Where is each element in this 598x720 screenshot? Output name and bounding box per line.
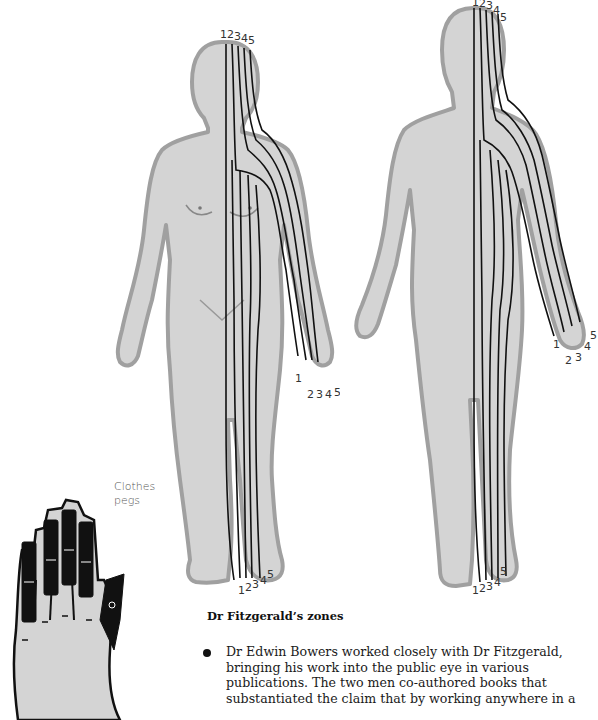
front-head-zone-2: 2 bbox=[227, 28, 234, 41]
back-head-zone-3: 3 bbox=[486, 0, 493, 12]
back-head-zone-2: 2 bbox=[479, 0, 486, 10]
back-head-zone-4: 4 bbox=[493, 4, 500, 17]
front-head-zone-3: 3 bbox=[234, 30, 241, 43]
front-foot-zone-4: 4 bbox=[260, 574, 267, 587]
back-hand-zone-1: 1 bbox=[553, 338, 560, 351]
back-foot-zone-1: 1 bbox=[472, 584, 479, 597]
figure-caption: Dr Fitzgerald’s zones bbox=[207, 609, 344, 623]
back-hand-zone-2: 2 bbox=[565, 354, 572, 367]
front-foot-zone-5: 5 bbox=[267, 568, 274, 581]
back-hand-zone-5: 5 bbox=[590, 329, 597, 342]
back-head-zone-5: 5 bbox=[500, 11, 507, 24]
back-head-zone-1: 1 bbox=[472, 0, 479, 9]
front-foot-zone-3: 3 bbox=[252, 578, 259, 591]
front-head-zone-5: 5 bbox=[248, 34, 255, 47]
front-hand-zone-2: 2 bbox=[307, 388, 314, 401]
front-foot-zone-1: 1 bbox=[238, 584, 245, 597]
back-body-illustration: 1 2 3 4 5 1 2 3 4 5 1 2 3 4 5 bbox=[340, 0, 598, 600]
bullet-text: Dr Edwin Bowers worked closely with Dr F… bbox=[226, 644, 598, 706]
clothes-pegs-label: Clothes pegs bbox=[114, 480, 155, 508]
back-foot-zone-2: 2 bbox=[479, 582, 486, 595]
front-foot-zone-2: 2 bbox=[245, 581, 252, 594]
bullet-icon bbox=[203, 649, 211, 657]
clothes-pegs-label-line2: pegs bbox=[114, 494, 155, 508]
bullet-paragraph: Dr Edwin Bowers worked closely with Dr F… bbox=[226, 644, 598, 706]
front-head-zone-1: 1 bbox=[220, 28, 227, 41]
front-hand-zone-4: 4 bbox=[325, 388, 332, 401]
back-foot-zone-5: 5 bbox=[500, 565, 507, 578]
front-head-zone-4: 4 bbox=[241, 32, 248, 45]
front-hand-zone-3: 3 bbox=[316, 388, 323, 401]
back-hand-zone-3: 3 bbox=[575, 351, 582, 364]
back-body-figure: 1 2 3 4 5 1 2 3 4 5 1 2 3 4 5 bbox=[340, 0, 598, 600]
clothes-pegs-label-line1: Clothes bbox=[114, 480, 155, 494]
front-hand-zone-1: 1 bbox=[295, 372, 302, 385]
back-foot-zone-3: 3 bbox=[486, 580, 493, 593]
